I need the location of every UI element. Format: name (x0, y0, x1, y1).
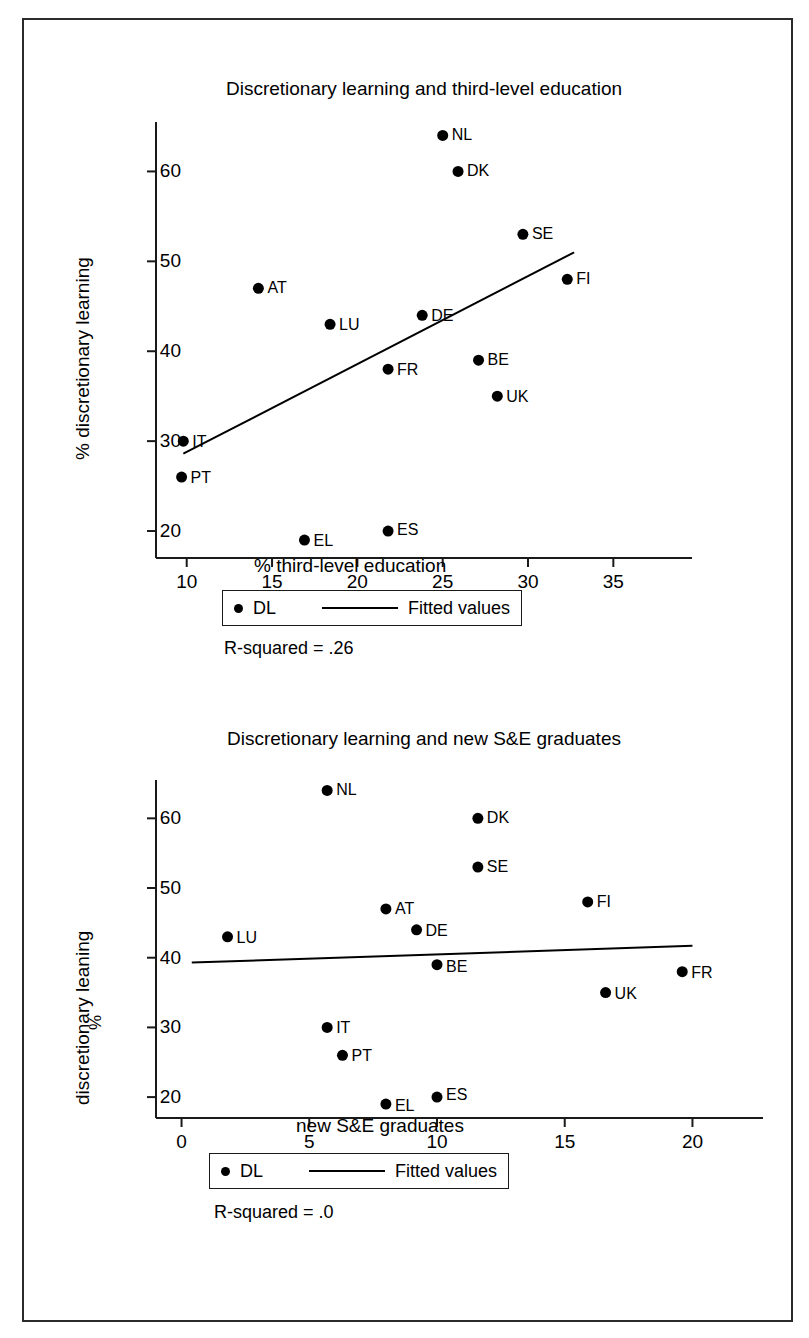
x-tick-label: 25 (432, 571, 453, 593)
y-tick-label: 20 (141, 1086, 181, 1108)
panel2-rsquared: R-squared = .0 (214, 1202, 334, 1223)
data-point-marker (337, 1050, 348, 1061)
legend-marker-dot-icon (234, 604, 243, 613)
y-tick-label: 40 (141, 947, 181, 969)
y-tick-label: 30 (141, 430, 181, 452)
data-point-marker (453, 166, 464, 177)
panel-discretionary-vs-se-graduates: Discretionary learning and new S&E gradu… (24, 710, 809, 1330)
data-point-label: AT (395, 900, 414, 918)
legend-marker-label: DL (240, 1161, 263, 1182)
data-point-marker (472, 813, 483, 824)
data-point-marker (383, 364, 394, 375)
x-tick-label: 15 (261, 571, 282, 593)
legend-fitted-line-icon (322, 607, 398, 609)
data-point-label: FR (397, 361, 418, 379)
data-point-marker (380, 903, 391, 914)
x-tick-label: 5 (304, 1131, 315, 1153)
x-tick-label: 10 (426, 1131, 447, 1153)
data-point-label: NL (336, 781, 356, 799)
data-point-label: DE (426, 922, 448, 940)
data-point-marker (677, 966, 688, 977)
data-point-label: DK (487, 809, 509, 827)
data-point-marker (325, 319, 336, 330)
data-point-marker (322, 785, 333, 796)
panel2-y-axis-percent-sign: % (86, 1015, 106, 1030)
data-point-label: PT (351, 1047, 371, 1065)
x-tick-label: 35 (603, 571, 624, 593)
legend-line-label: Fitted values (408, 598, 510, 619)
data-point-marker (562, 274, 573, 285)
data-point-label: UK (615, 985, 637, 1003)
data-point-marker (176, 472, 187, 483)
data-point-marker (432, 1092, 443, 1103)
x-tick-label: 15 (554, 1131, 575, 1153)
data-point-marker (222, 931, 233, 942)
y-tick-label: 50 (141, 877, 181, 899)
data-point-marker (411, 924, 422, 935)
data-point-label: SE (487, 858, 508, 876)
y-tick-label: 30 (141, 1016, 181, 1038)
data-point-label: AT (267, 279, 286, 297)
fitted-line (183, 252, 574, 453)
figure-frame: Discretionary learning and third-level e… (22, 18, 793, 1322)
y-tick-label: 60 (141, 160, 181, 182)
data-point-label: FR (691, 964, 712, 982)
y-tick-label: 50 (141, 250, 181, 272)
data-point-marker (299, 535, 310, 546)
panel1-y-axis-label: % discretionary learning (72, 257, 94, 460)
data-point-label: NL (452, 126, 472, 144)
data-point-label: IT (192, 433, 206, 451)
data-point-marker (437, 130, 448, 141)
panel1-legend: DL Fitted values (222, 590, 522, 626)
data-point-label: EL (395, 1097, 415, 1115)
data-point-marker (517, 229, 528, 240)
data-point-label: PT (191, 469, 211, 487)
x-tick-label: 10 (176, 571, 197, 593)
data-point-marker (473, 355, 484, 366)
data-point-marker (380, 1099, 391, 1110)
data-point-label: BE (446, 958, 467, 976)
panel1-rsquared: R-squared = .26 (224, 638, 354, 659)
legend-line-label: Fitted values (395, 1161, 497, 1182)
panel-discretionary-vs-third-level: Discretionary learning and third-level e… (24, 60, 809, 670)
legend-marker-dot-icon (221, 1167, 230, 1176)
data-point-marker (417, 310, 428, 321)
data-point-label: DE (431, 307, 453, 325)
data-point-marker (492, 391, 503, 402)
data-point-marker (600, 987, 611, 998)
data-point-marker (582, 896, 593, 907)
data-point-label: FI (576, 270, 590, 288)
y-tick-label: 60 (141, 807, 181, 829)
y-tick-label: 40 (141, 340, 181, 362)
data-point-marker (432, 959, 443, 970)
data-point-label: BE (488, 351, 509, 369)
panel2-legend: DL Fitted values (209, 1153, 509, 1189)
data-point-label: DK (467, 162, 489, 180)
data-point-label: EL (313, 532, 333, 550)
x-tick-label: 20 (347, 571, 368, 593)
legend-fitted-line-icon (309, 1170, 385, 1172)
x-tick-label: 0 (176, 1131, 187, 1153)
data-point-label: FI (597, 893, 611, 911)
legend-marker-label: DL (253, 598, 276, 619)
figure-page: Discretionary learning and third-level e… (0, 0, 809, 1338)
y-tick-label: 20 (141, 520, 181, 542)
data-point-label: SE (532, 225, 553, 243)
data-point-marker (383, 526, 394, 537)
data-point-label: LU (237, 929, 257, 947)
x-tick-label: 30 (517, 571, 538, 593)
data-point-marker (253, 283, 264, 294)
x-tick-label: 20 (682, 1131, 703, 1153)
data-point-label: ES (446, 1086, 467, 1104)
data-point-label: IT (336, 1019, 350, 1037)
data-point-label: UK (506, 388, 528, 406)
data-point-marker (472, 862, 483, 873)
data-point-label: LU (339, 316, 359, 334)
data-point-marker (322, 1022, 333, 1033)
data-point-label: ES (397, 521, 418, 539)
fitted-line (192, 946, 693, 963)
